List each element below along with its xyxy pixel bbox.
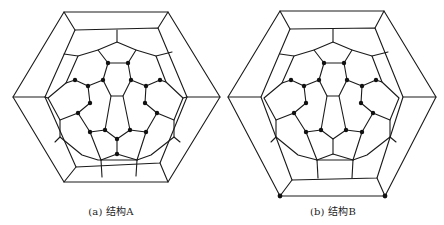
panel-structure-a: (a) 结构A xyxy=(0,0,222,225)
caption-structure-a: (a) 结构A xyxy=(0,203,222,218)
graph-structure-b xyxy=(222,0,444,225)
panel-structure-b: (b) 结构B xyxy=(222,0,444,225)
caption-structure-b: (b) 结构B xyxy=(222,203,444,218)
graph-structure-a xyxy=(0,0,222,225)
